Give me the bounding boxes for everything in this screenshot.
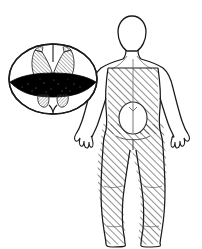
anatomical-illustration	[0, 0, 202, 249]
illustration-canvas	[0, 0, 202, 249]
trapezius-right	[137, 56, 152, 69]
spinal-cord-panel	[9, 44, 97, 114]
body-panel	[74, 16, 196, 249]
head	[118, 16, 146, 51]
trapezius-left	[112, 56, 127, 69]
foot-right	[141, 244, 161, 247]
